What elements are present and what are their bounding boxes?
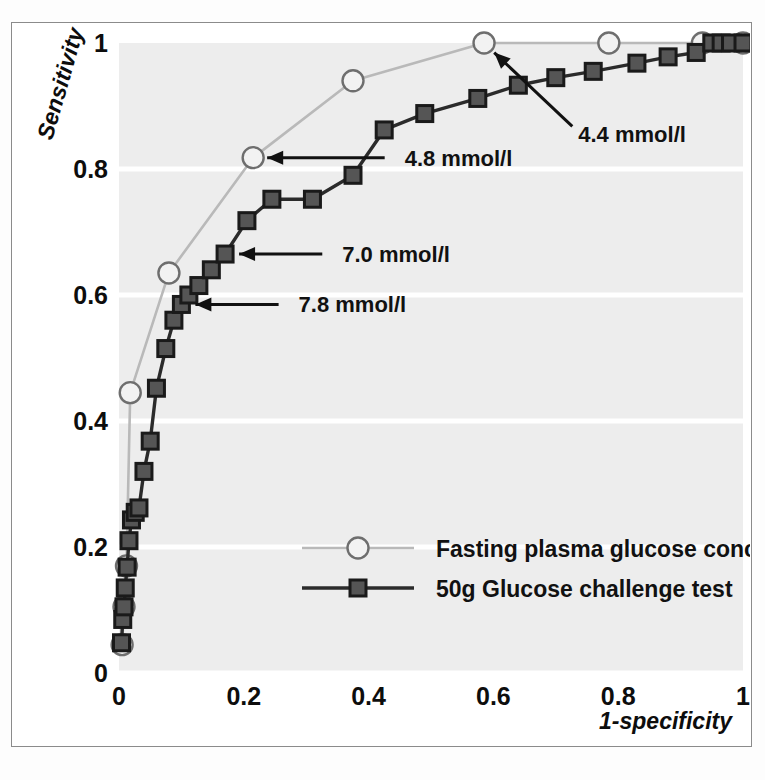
fasting-plasma-glucose-marker [243, 147, 264, 168]
fasting-plasma-glucose-marker [474, 33, 495, 54]
y-tick-0.4: 0.4 [73, 407, 108, 435]
legend-label-0: Fasting plasma glucose concentration [436, 536, 750, 562]
glucose-challenge-test-marker [376, 122, 392, 138]
glucose-challenge-test-marker [548, 70, 564, 86]
y-tick-0.8: 0.8 [73, 155, 108, 183]
annotation-label-4-4: 4.4 mmol/l [578, 122, 686, 147]
glucose-challenge-test-marker [116, 599, 132, 615]
legend-marker-filled-square [350, 580, 366, 596]
glucose-challenge-test-marker [121, 533, 137, 549]
x-axis-title: 1-specificity [599, 708, 733, 734]
glucose-challenge-test-marker [660, 49, 676, 65]
glucose-challenge-test-marker [239, 213, 255, 229]
figure-root: 4.4 mmol/l4.8 mmol/l7.0 mmol/l7.8 mmol/l… [0, 0, 765, 780]
fasting-plasma-glucose-marker [120, 382, 141, 403]
x-axis-tick-labels: 00.20.40.60.81 [112, 682, 750, 710]
glucose-challenge-test-marker [117, 580, 133, 596]
glucose-challenge-test-marker [119, 559, 135, 575]
glucose-challenge-test-marker [735, 35, 750, 51]
y-tick-0.6: 0.6 [73, 281, 108, 309]
glucose-challenge-test-marker [264, 191, 280, 207]
glucose-challenge-test-marker [629, 55, 645, 71]
fasting-plasma-glucose-marker [598, 33, 619, 54]
fasting-plasma-glucose-marker [343, 70, 364, 91]
figure-frame: 4.4 mmol/l4.8 mmol/l7.0 mmol/l7.8 mmol/l… [11, 22, 752, 747]
glucose-challenge-test-marker [688, 44, 704, 60]
glucose-challenge-test-marker [114, 635, 130, 651]
glucose-challenge-test-marker [191, 278, 207, 294]
x-tick-0: 0 [112, 682, 126, 710]
glucose-challenge-test-marker [304, 191, 320, 207]
glucose-challenge-test-marker [142, 433, 158, 449]
glucose-challenge-test-marker [131, 500, 147, 516]
x-tick-1: 1 [736, 682, 750, 710]
y-tick-0.2: 0.2 [73, 533, 108, 561]
glucose-challenge-test-marker [470, 90, 486, 106]
roc-chart: 4.4 mmol/l4.8 mmol/l7.0 mmol/l7.8 mmol/l… [12, 23, 750, 745]
glucose-challenge-test-marker [148, 380, 164, 396]
glucose-challenge-test-marker [217, 246, 233, 262]
glucose-challenge-test-marker [345, 167, 361, 183]
x-tick-0.6: 0.6 [476, 682, 511, 710]
y-axis-tick-labels: 00.20.40.60.81 [73, 29, 108, 687]
glucose-challenge-test-marker [417, 106, 433, 122]
fasting-plasma-glucose-marker [158, 262, 179, 283]
glucose-challenge-test-marker [203, 262, 219, 278]
legend-label-1: 50g Glucose challenge test [436, 576, 733, 602]
x-tick-0.8: 0.8 [601, 682, 636, 710]
glucose-challenge-test-marker [585, 63, 601, 79]
glucose-challenge-test-marker [136, 463, 152, 479]
glucose-challenge-test-marker [166, 312, 182, 328]
x-tick-0.2: 0.2 [226, 682, 261, 710]
annotation-label-7-0: 7.0 mmol/l [342, 242, 450, 267]
x-tick-0.4: 0.4 [351, 682, 386, 710]
y-tick-0: 0 [94, 659, 108, 687]
legend-marker-open-circle [348, 538, 369, 559]
y-tick-1: 1 [94, 29, 108, 57]
annotation-label-4-8: 4.8 mmol/l [405, 146, 513, 171]
annotation-label-7-8: 7.8 mmol/l [299, 292, 407, 317]
glucose-challenge-test-marker [158, 341, 174, 357]
y-axis-title: Sensitivity [32, 23, 89, 142]
